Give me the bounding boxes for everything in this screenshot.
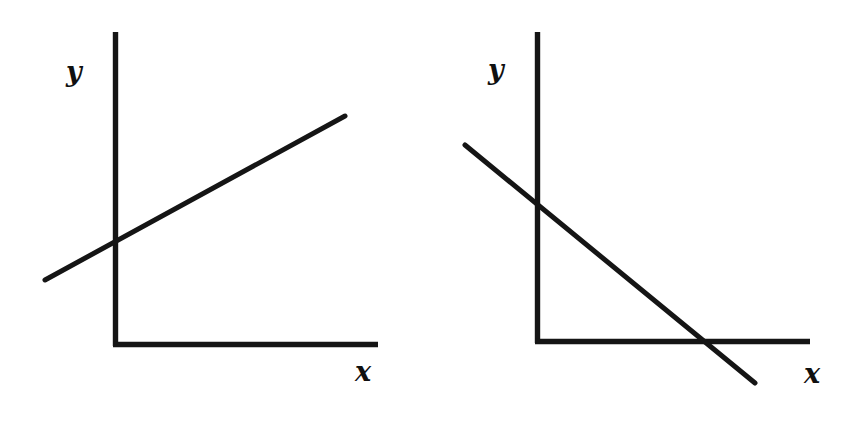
x-axis-label: x	[804, 360, 820, 387]
x-axis-label: x	[355, 358, 371, 385]
negative-slope-data-line	[465, 145, 755, 383]
y-axis-label: y	[488, 56, 504, 83]
panel-negative-slope-graph: y x	[430, 0, 860, 428]
positive-slope-data-line	[45, 116, 345, 280]
panel-positive-slope-graph: y x	[0, 0, 430, 428]
y-axis-label: y	[66, 58, 82, 85]
figure-root: y x y x	[0, 0, 860, 428]
